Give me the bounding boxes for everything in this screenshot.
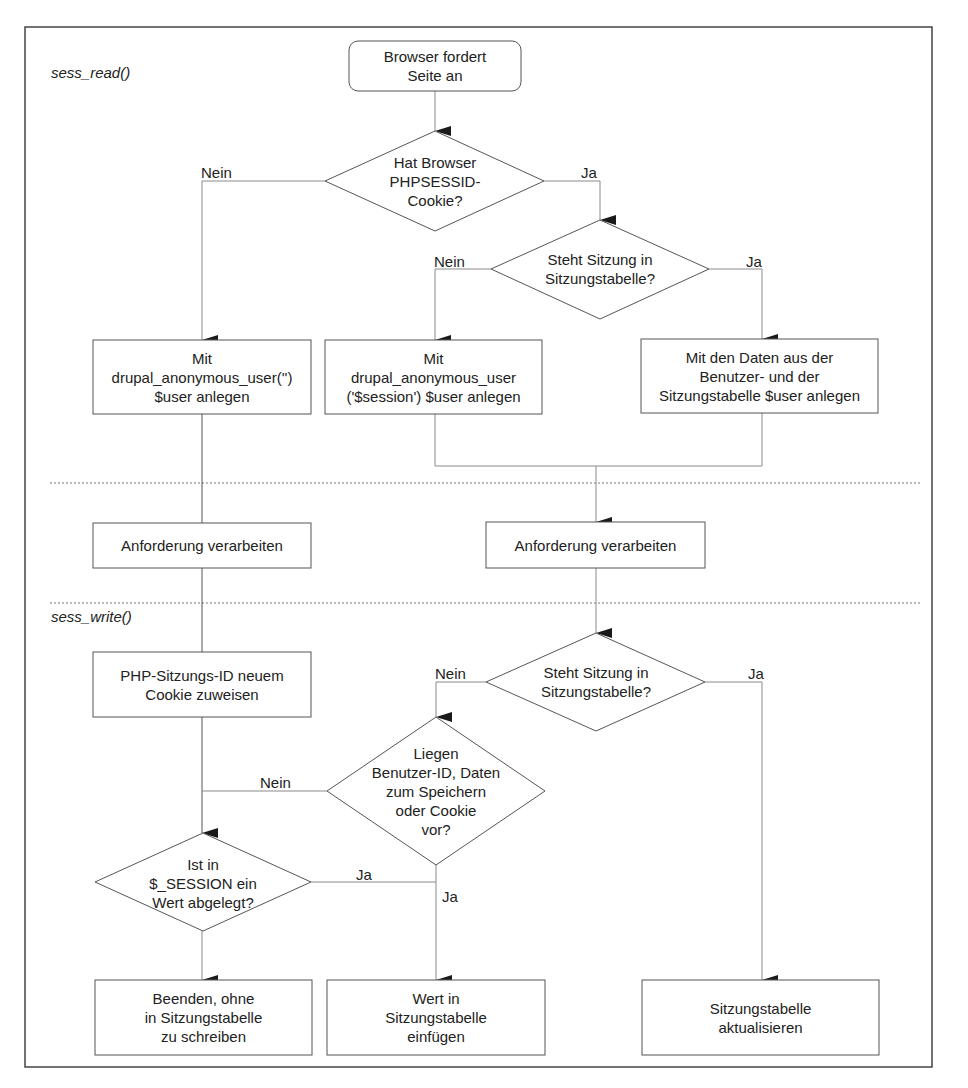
anon-session-text: Mit drupal_anonymous_user ('$session') $…: [325, 340, 542, 414]
edge-label-data-yes: Ja: [442, 887, 458, 906]
edge-label-read-no: Nein: [434, 252, 465, 271]
edge-cookie-yes: [544, 181, 600, 220]
edge-label-write-yes: Ja: [748, 664, 764, 683]
session-value-decision-text: Ist in $_SESSION ein Wert abgelegt?: [123, 853, 283, 913]
section-label-write: sess_write(): [51, 607, 132, 626]
process-right-text: Anforderung verarbeiten: [486, 522, 705, 568]
edge-label-read-yes: Ja: [746, 252, 762, 271]
end-no-write-text: Beenden, ohne in Sitzungstabelle zu schr…: [95, 980, 312, 1055]
new-cookie-text: PHP-Sitzungs-ID neuem Cookie zuweisen: [93, 652, 311, 717]
cookie-decision-text: Hat Browser PHPSESSID- Cookie?: [355, 141, 515, 221]
session-write-decision-text: Steht Sitzung in Sitzungstabelle?: [516, 653, 676, 711]
edge-cookie-no: [202, 181, 325, 340]
user-data-text: Mit den Daten aus der Benutzer- und der …: [641, 339, 878, 413]
edge-write-yes: [705, 682, 762, 980]
edge-write-no: [436, 682, 486, 717]
section-label-read: sess_read(): [51, 63, 130, 82]
data-present-decision-text: Liegen Benutzer-ID, Daten zum Speichern …: [356, 741, 516, 841]
edge-label-cookie-yes: Ja: [581, 163, 597, 182]
edge-label-cookie-no: Nein: [201, 163, 232, 182]
anon-empty-text: Mit drupal_anonymous_user('') $user anle…: [93, 340, 311, 414]
edge-read-no: [435, 269, 491, 340]
end-update-text: Sitzungstabelle aktualisieren: [642, 980, 879, 1055]
end-insert-text: Wert in Sitzungstabelle einfügen: [327, 980, 545, 1055]
edge-join-session: [435, 413, 762, 466]
edge-label-write-no: Nein: [435, 664, 466, 683]
edge-label-value-yes: Ja: [356, 865, 372, 884]
session-read-decision-text: Steht Sitzung in Sitzungstabelle?: [520, 240, 680, 298]
process-left-text: Anforderung verarbeiten: [93, 523, 311, 568]
start-text: Browser fordert Seite an: [349, 41, 521, 91]
edge-label-data-no: Nein: [260, 773, 291, 792]
edge-read-yes: [709, 269, 762, 339]
